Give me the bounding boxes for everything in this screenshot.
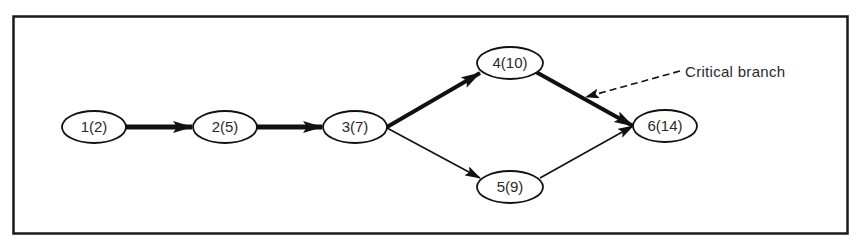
edge-3-5 — [387, 128, 480, 178]
node-1: 1(2) — [62, 111, 126, 143]
critical-branch-label: Critical branch — [685, 63, 785, 80]
node-2-label: 2(5) — [212, 118, 239, 135]
edge-4-6-critical — [536, 72, 633, 126]
node-4: 4(10) — [477, 47, 543, 79]
node-1-label: 1(2) — [81, 118, 108, 135]
node-4-label: 4(10) — [492, 54, 527, 71]
node-3: 3(7) — [323, 111, 387, 143]
node-6: 6(14) — [633, 110, 697, 142]
critical-path-diagram: Critical branch 1(2) 2(5) 3(7) 4(10) 5(9… — [0, 0, 861, 247]
node-5-label: 5(9) — [497, 178, 524, 195]
node-2: 2(5) — [193, 111, 257, 143]
node-6-label: 6(14) — [647, 117, 682, 134]
critical-branch-pointer — [586, 71, 680, 97]
edge-5-6 — [540, 126, 633, 178]
node-5: 5(9) — [477, 171, 543, 203]
edge-3-4-critical — [387, 73, 480, 127]
node-3-label: 3(7) — [342, 118, 369, 135]
